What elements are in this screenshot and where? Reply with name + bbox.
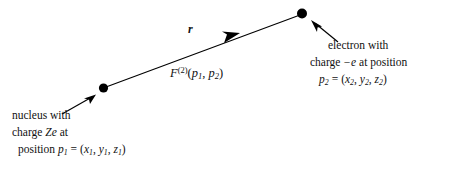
- force-args-close: ): [219, 66, 223, 80]
- force-superscript: (2): [178, 65, 188, 75]
- nucleus-equals-sign: =: [68, 143, 81, 155]
- electron-pointer-arrow-head: [311, 20, 322, 32]
- electron-caption-line-2: charge −e at position: [310, 54, 407, 71]
- electron-caption-line-3: p2=(x2, y2, z2): [310, 71, 407, 91]
- vector-r-label: r: [188, 21, 193, 38]
- nucleus-caption-line-2: charge Ze at: [12, 124, 126, 141]
- nucleus-point-sub: 1: [64, 148, 68, 157]
- nucleus-charge-suffix: at: [57, 126, 68, 138]
- physics-force-diagram: r F(2)(p1, p2) nucleus with charge Ze at…: [0, 0, 450, 177]
- nucleus-dot: [99, 83, 108, 92]
- electron-tuple-close: ): [383, 73, 387, 85]
- nucleus-charge-prefix: charge: [12, 126, 45, 138]
- electron-charge-suffix: at position: [356, 56, 407, 68]
- electron-equals-sign: =: [329, 73, 342, 85]
- electron-caption-line-1: electron with: [310, 37, 407, 54]
- force-expression-label: F(2)(p1, p2): [170, 62, 223, 85]
- nucleus-caption-line-3: position p1=(x1, y1, z1): [12, 141, 126, 161]
- electron-caption: electron with charge −e at position p2=(…: [310, 37, 407, 91]
- nucleus-position-prefix: position: [18, 143, 58, 155]
- electron-charge-symbol: −e: [343, 56, 356, 68]
- separation-vector-arrowhead: [222, 32, 240, 44]
- nucleus-caption: nucleus with charge Ze at position p1=(x…: [12, 107, 126, 161]
- nucleus-caption-line-1: nucleus with: [12, 107, 126, 124]
- electron-charge-prefix: charge: [310, 56, 343, 68]
- nucleus-pointer-arrow-head: [84, 95, 96, 105]
- force-symbol: F: [170, 66, 178, 80]
- nucleus-tuple-close: ): [122, 143, 126, 155]
- nucleus-charge-symbol: Ze: [45, 126, 57, 138]
- electron-dot: [297, 9, 307, 19]
